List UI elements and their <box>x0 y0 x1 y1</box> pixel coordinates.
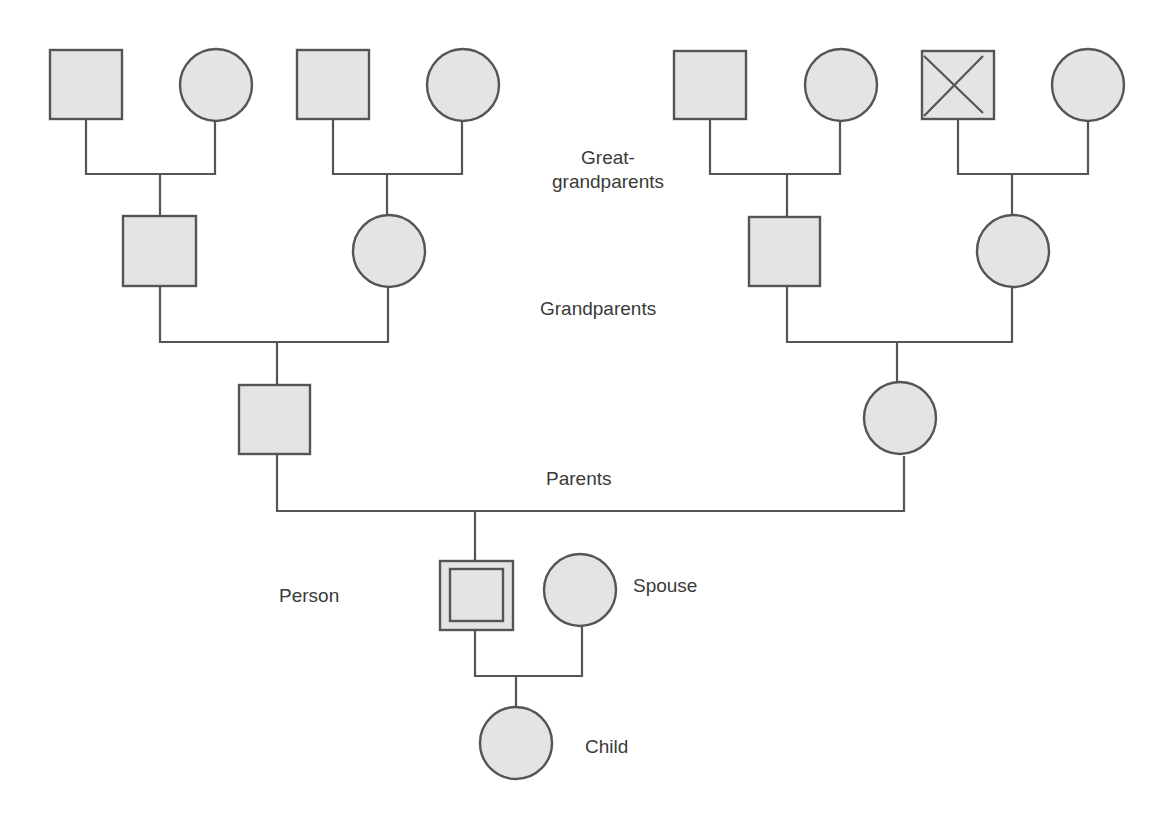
female-circle-icon <box>427 49 499 121</box>
deceased-male-square-icon <box>922 51 994 119</box>
female-circle-icon <box>805 49 877 121</box>
male-square-icon <box>674 51 746 119</box>
female-circle-icon <box>1052 49 1124 121</box>
female-circle-icon <box>977 215 1049 287</box>
pedigree-diagram <box>0 0 1169 825</box>
male-square-icon <box>50 50 122 119</box>
female-circle-icon <box>864 382 936 454</box>
child-circle-icon <box>480 707 552 779</box>
spouse-circle-icon <box>544 554 616 626</box>
child-row <box>480 707 552 779</box>
grandparents-row <box>123 215 1049 287</box>
grandparents-label: Grandparents <box>540 297 656 321</box>
proband-double-square-icon <box>440 561 513 630</box>
female-circle-icon <box>180 49 252 121</box>
great-grandparents-label-line1: Great- <box>552 146 664 170</box>
female-circle-icon <box>353 215 425 287</box>
parents-label: Parents <box>546 467 611 491</box>
parents-row <box>239 382 936 454</box>
male-square-icon <box>749 217 820 286</box>
great-grandparents-label-line2: grandparents <box>552 170 664 194</box>
great-grandparents-row <box>50 49 1124 121</box>
male-square-icon <box>239 385 310 454</box>
child-label: Child <box>585 735 628 759</box>
great-grandparents-label: Great- grandparents <box>552 146 664 194</box>
spouse-label: Spouse <box>633 574 697 598</box>
male-square-icon <box>297 50 369 119</box>
person-row <box>440 554 616 630</box>
person-label: Person <box>279 584 339 608</box>
male-square-icon <box>123 216 196 286</box>
